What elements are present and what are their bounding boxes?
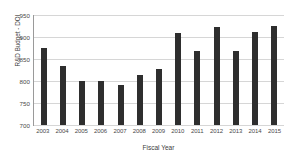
bar[interactable]: [252, 32, 258, 125]
bar[interactable]: [137, 75, 143, 125]
bars-layer: [34, 15, 284, 125]
bar-slot: [188, 15, 207, 125]
bar-chart-figure: R&D Budget - DOI 700750800850900950 2003…: [0, 0, 294, 164]
y-axis-tick-labels: 700750800850900950: [0, 15, 30, 126]
bar-slot: [265, 15, 284, 125]
x-tick-label: 2012: [207, 128, 226, 140]
x-axis-tick-labels: 2003200420052006200720082009201020112012…: [33, 128, 284, 140]
y-tick-label: 750: [4, 100, 30, 107]
bar[interactable]: [98, 81, 104, 125]
bar-slot: [149, 15, 168, 125]
x-tick-label: 2007: [110, 128, 129, 140]
x-tick-label: 2005: [72, 128, 91, 140]
bar[interactable]: [156, 69, 162, 125]
bar[interactable]: [79, 81, 85, 125]
bar-slot: [111, 15, 130, 125]
bar-slot: [92, 15, 111, 125]
bar-slot: [34, 15, 53, 125]
bar-slot: [130, 15, 149, 125]
bar-slot: [53, 15, 72, 125]
bar-slot: [246, 15, 265, 125]
x-tick-label: 2004: [52, 128, 71, 140]
bar-slot: [72, 15, 91, 125]
bar[interactable]: [175, 33, 181, 125]
x-tick-label: 2006: [91, 128, 110, 140]
plot-area: [33, 15, 284, 126]
y-tick-label: 800: [4, 78, 30, 85]
bar-slot: [207, 15, 226, 125]
bar[interactable]: [41, 48, 47, 125]
gridline: [34, 125, 284, 126]
x-tick-label: 2008: [130, 128, 149, 140]
bar-slot: [169, 15, 188, 125]
bar[interactable]: [118, 85, 124, 125]
x-tick-label: 2015: [265, 128, 284, 140]
x-tick-label: 2013: [226, 128, 245, 140]
bar[interactable]: [60, 66, 66, 125]
bar[interactable]: [271, 26, 277, 125]
x-axis-title: Fiscal Year: [33, 144, 284, 151]
bar[interactable]: [214, 27, 220, 125]
y-tick-label: 700: [4, 122, 30, 129]
bar[interactable]: [233, 51, 239, 125]
y-tick-label: 900: [4, 34, 30, 41]
x-tick-label: 2010: [168, 128, 187, 140]
x-tick-label: 2014: [245, 128, 264, 140]
x-tick-label: 2009: [149, 128, 168, 140]
bar[interactable]: [194, 51, 200, 125]
bar-slot: [226, 15, 245, 125]
y-tick-label: 850: [4, 56, 30, 63]
x-tick-label: 2003: [33, 128, 52, 140]
y-tick-label: 950: [4, 12, 30, 19]
x-tick-label: 2011: [188, 128, 207, 140]
